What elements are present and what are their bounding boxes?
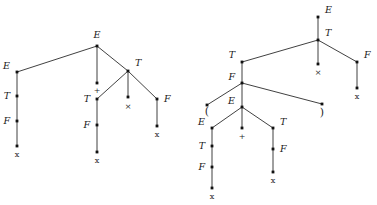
tree-edge xyxy=(128,71,157,99)
nonterminal-label: F xyxy=(227,71,235,82)
tree-node-dot xyxy=(272,171,275,174)
nonterminal-label: F xyxy=(197,161,205,172)
tree-node-dot xyxy=(127,96,130,99)
tree-edge xyxy=(242,40,318,62)
tree-node-dot xyxy=(127,70,130,73)
nonterminal-label: F xyxy=(363,49,371,60)
tree-edge xyxy=(242,83,322,104)
nonterminal-label: T xyxy=(199,140,206,151)
nonterminal-label: T xyxy=(229,49,236,60)
nonterminal-label: F xyxy=(2,115,10,126)
terminal-label: x xyxy=(355,92,360,101)
tree-node-dot xyxy=(156,98,159,101)
terminal-label: × xyxy=(125,102,132,111)
tree-node-dot xyxy=(241,61,244,64)
terminal-label: x xyxy=(95,156,100,165)
tree-edge xyxy=(97,71,128,99)
tree-node-dot xyxy=(16,120,19,123)
tree-node-dot xyxy=(241,127,244,130)
tree-node-dot xyxy=(317,16,320,19)
tree-node-dot xyxy=(317,63,320,66)
tree-node-dot xyxy=(16,71,19,74)
tree-node-dot xyxy=(321,103,324,106)
tree-node-dot xyxy=(211,145,214,148)
terminal-label: × xyxy=(315,68,322,77)
terminal-label: + xyxy=(94,86,101,95)
tree-edge xyxy=(17,46,97,72)
figure-canvas: EE+TTFxT×FFxxETT×FxF(E)E+TTFxFx xyxy=(0,0,377,205)
nonterminal-label: E xyxy=(227,95,235,106)
parse-trees-figure: EE+TTFxT×FFxxETT×FxF(E)E+TTFxFx xyxy=(0,0,377,205)
tree-node-dot xyxy=(96,45,99,48)
nonterminal-label: T xyxy=(84,93,91,104)
tree-edge xyxy=(318,40,357,62)
nonterminal-label: E xyxy=(324,4,332,15)
nonterminal-label: E xyxy=(93,29,101,40)
tree-node-dot xyxy=(356,87,359,90)
nonterminal-label: T xyxy=(325,27,332,38)
tree-edge xyxy=(207,83,242,105)
nonterminal-label: T xyxy=(135,57,142,68)
tree-node-dot xyxy=(211,127,214,130)
tree-node-dot xyxy=(16,145,19,148)
tree-edge xyxy=(242,107,273,128)
nonterminal-label: E xyxy=(2,60,10,71)
tree-node-dot xyxy=(241,82,244,85)
tree-node-dot xyxy=(317,39,320,42)
tree-node-dot xyxy=(272,148,275,151)
terminal-label: x xyxy=(15,150,20,159)
terminal-label: x xyxy=(271,176,276,185)
nonterminal-label: T xyxy=(4,90,11,101)
tree-node-dot xyxy=(241,106,244,109)
tree-node-dot xyxy=(16,95,19,98)
tree-node-dot xyxy=(272,127,275,130)
tree-node-dot xyxy=(356,61,359,64)
terminal-label: + xyxy=(239,132,246,141)
tree-edge xyxy=(212,107,242,128)
tree-edge xyxy=(97,46,128,71)
nonterminal-label: F xyxy=(279,143,287,154)
tree-node-dot xyxy=(96,151,99,154)
parse-tree-paren-x-plus-x-times-x: ETT×FxF(E)E+TTFxFx xyxy=(197,4,371,201)
tree-node-dot xyxy=(96,98,99,101)
terminal-label: ( xyxy=(205,105,209,118)
tree-node-dot xyxy=(211,187,214,190)
tree-node-dot xyxy=(96,124,99,127)
nonterminal-label: F xyxy=(82,119,90,130)
nonterminal-label: E xyxy=(197,116,205,127)
nonterminal-label: F xyxy=(163,93,171,104)
tree-nodes: ETT×FxF(E)E+TTFxFx xyxy=(197,4,371,201)
tree-node-dot xyxy=(211,166,214,169)
terminal-label: x xyxy=(155,130,160,139)
tree-node-dot xyxy=(156,125,159,128)
terminal-label: ) xyxy=(320,106,324,119)
terminal-label: x xyxy=(210,192,215,201)
nonterminal-label: T xyxy=(280,116,287,127)
tree-node-dot xyxy=(96,82,99,85)
parse-tree-x-plus-x-times-x: EE+TTFxT×FFxx xyxy=(2,29,171,165)
